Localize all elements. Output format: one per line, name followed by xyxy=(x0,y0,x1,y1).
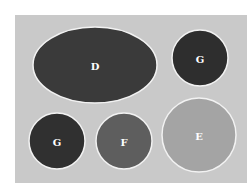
label-f: F xyxy=(120,137,127,148)
label-g-top: G xyxy=(196,54,205,65)
label-g-bottom: G xyxy=(53,137,62,148)
shape-g-top: G xyxy=(172,30,228,86)
shape-g-bottom: G xyxy=(29,113,85,169)
shape-e: E xyxy=(162,98,236,172)
diagram-canvas: D G G F E xyxy=(0,0,251,192)
label-e: E xyxy=(195,131,203,142)
label-d: D xyxy=(91,61,100,72)
shape-d: D xyxy=(33,27,157,103)
shape-f: F xyxy=(96,113,152,169)
